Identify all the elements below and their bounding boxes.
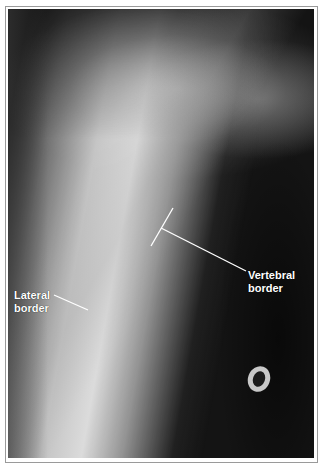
xray-image: [8, 9, 314, 458]
vertebral-border-label: Vertebral border: [248, 269, 295, 295]
lung-field: [8, 9, 314, 458]
label-line: Vertebral: [248, 269, 295, 282]
lateral-border-label: Lateral border: [14, 289, 50, 315]
label-line: border: [248, 282, 295, 295]
label-line: Lateral: [14, 289, 50, 302]
label-line: border: [14, 302, 50, 315]
